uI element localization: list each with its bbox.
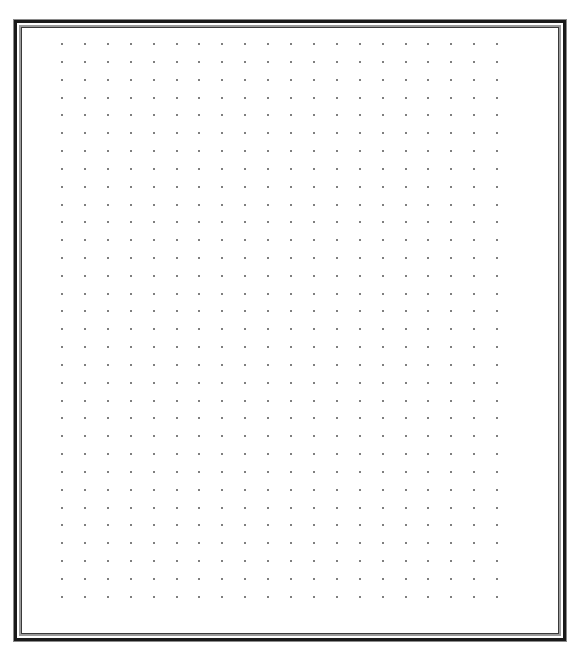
grid-dot bbox=[313, 150, 315, 152]
grid-dot bbox=[244, 204, 246, 206]
grid-dot bbox=[130, 346, 132, 348]
grid-dot bbox=[496, 400, 498, 402]
grid-dot bbox=[313, 257, 315, 259]
grid-dot bbox=[153, 293, 155, 295]
grid-dot bbox=[61, 221, 63, 223]
grid-dot bbox=[313, 524, 315, 526]
grid-dot bbox=[290, 346, 292, 348]
grid-dot bbox=[267, 400, 269, 402]
grid-dot bbox=[198, 400, 200, 402]
grid-dot bbox=[336, 364, 338, 366]
grid-dot bbox=[107, 204, 109, 206]
grid-dot bbox=[290, 186, 292, 188]
grid-dot bbox=[198, 257, 200, 259]
grid-dot bbox=[496, 43, 498, 45]
grid-dot bbox=[153, 542, 155, 544]
grid-dot bbox=[61, 435, 63, 437]
grid-dot bbox=[473, 97, 475, 99]
grid-dot bbox=[313, 346, 315, 348]
grid-dot bbox=[198, 578, 200, 580]
grid-dot bbox=[405, 400, 407, 402]
grid-dot bbox=[84, 293, 86, 295]
grid-dot bbox=[267, 346, 269, 348]
grid-dot bbox=[313, 239, 315, 241]
grid-dot bbox=[313, 364, 315, 366]
grid-dot bbox=[290, 417, 292, 419]
grid-dot bbox=[473, 43, 475, 45]
grid-dot bbox=[450, 400, 452, 402]
grid-dot bbox=[496, 542, 498, 544]
grid-dot bbox=[130, 489, 132, 491]
grid-dot bbox=[107, 275, 109, 277]
grid-dot bbox=[130, 400, 132, 402]
grid-dot bbox=[61, 257, 63, 259]
grid-dot bbox=[496, 275, 498, 277]
grid-dot bbox=[473, 310, 475, 312]
grid-dot bbox=[290, 79, 292, 81]
grid-dot bbox=[313, 435, 315, 437]
grid-dot bbox=[198, 328, 200, 330]
grid-dot bbox=[290, 168, 292, 170]
grid-dot bbox=[382, 578, 384, 580]
grid-dot bbox=[496, 346, 498, 348]
grid-dot bbox=[176, 132, 178, 134]
grid-dot bbox=[153, 239, 155, 241]
grid-dot bbox=[382, 79, 384, 81]
grid-dot bbox=[244, 542, 246, 544]
grid-dot bbox=[107, 293, 109, 295]
grid-dot bbox=[221, 79, 223, 81]
grid-dot bbox=[244, 186, 246, 188]
grid-dot bbox=[427, 489, 429, 491]
grid-dot bbox=[313, 114, 315, 116]
grid-dot bbox=[359, 221, 361, 223]
grid-dot bbox=[473, 328, 475, 330]
grid-dot bbox=[450, 542, 452, 544]
grid-dot bbox=[153, 79, 155, 81]
grid-dot bbox=[290, 310, 292, 312]
grid-dot bbox=[450, 257, 452, 259]
grid-dot bbox=[130, 596, 132, 598]
grid-dot bbox=[427, 150, 429, 152]
grid-dot bbox=[176, 97, 178, 99]
grid-dot bbox=[405, 364, 407, 366]
grid-dot bbox=[84, 400, 86, 402]
grid-dot bbox=[61, 168, 63, 170]
grid-dot bbox=[290, 293, 292, 295]
grid-dot bbox=[427, 257, 429, 259]
grid-dot bbox=[290, 239, 292, 241]
grid-dot bbox=[176, 186, 178, 188]
grid-dot bbox=[359, 328, 361, 330]
grid-dot bbox=[267, 524, 269, 526]
grid-dot bbox=[405, 471, 407, 473]
grid-dot bbox=[198, 417, 200, 419]
grid-dot bbox=[427, 400, 429, 402]
grid-dot bbox=[61, 186, 63, 188]
grid-dot bbox=[405, 97, 407, 99]
grid-dot bbox=[336, 596, 338, 598]
grid-dot bbox=[198, 275, 200, 277]
grid-dot bbox=[313, 168, 315, 170]
grid-dot bbox=[130, 150, 132, 152]
grid-dot bbox=[359, 435, 361, 437]
grid-dot bbox=[176, 310, 178, 312]
grid-dot bbox=[176, 257, 178, 259]
grid-dot bbox=[382, 524, 384, 526]
grid-dot bbox=[176, 275, 178, 277]
grid-dot bbox=[382, 186, 384, 188]
grid-dot bbox=[267, 453, 269, 455]
grid-dot bbox=[405, 435, 407, 437]
grid-dot bbox=[496, 132, 498, 134]
grid-dot bbox=[405, 221, 407, 223]
grid-dot bbox=[313, 453, 315, 455]
grid-dot bbox=[313, 560, 315, 562]
grid-dot bbox=[336, 471, 338, 473]
grid-dot bbox=[267, 239, 269, 241]
grid-dot bbox=[427, 97, 429, 99]
grid-dot bbox=[313, 132, 315, 134]
grid-dot bbox=[221, 471, 223, 473]
grid-dot bbox=[496, 435, 498, 437]
grid-dot bbox=[153, 310, 155, 312]
grid-dot bbox=[267, 542, 269, 544]
grid-dot bbox=[244, 310, 246, 312]
grid-dot bbox=[450, 560, 452, 562]
